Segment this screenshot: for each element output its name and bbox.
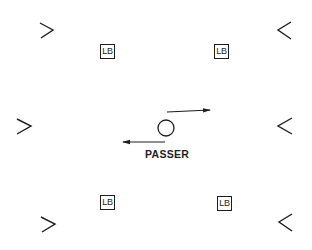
passer-label: PASSER	[145, 148, 189, 160]
passer-circle-icon	[158, 120, 174, 136]
diagram-graphics	[0, 0, 312, 250]
chevron-left-icon-bottom-right	[279, 214, 292, 231]
chevron-left-icon-top-right	[278, 22, 291, 39]
chevron-left-icon-middle-right	[278, 118, 292, 134]
defensive-alignment-diagram: LB LB LB LB	[0, 0, 312, 250]
chevron-right-icon-top-left	[40, 23, 53, 38]
chevron-right-icon-bottom-left	[41, 217, 55, 232]
arrow-right-icon	[167, 110, 210, 112]
chevron-right-icon-middle-left	[17, 119, 31, 134]
